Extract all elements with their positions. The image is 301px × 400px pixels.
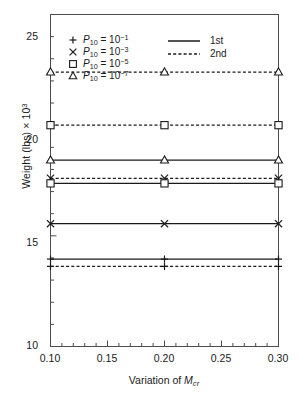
solid-line-icon — [167, 36, 201, 46]
data-series-layer — [47, 68, 283, 270]
legend-item-2nd: 2nd — [167, 47, 227, 60]
series-4 — [47, 180, 282, 187]
cross-icon — [66, 46, 80, 58]
series-1 — [47, 263, 282, 270]
legend-item-p10-3: P10 = 10−3 — [66, 46, 128, 58]
plus-icon — [66, 34, 80, 46]
legend-item-1st: 1st — [167, 34, 227, 47]
chart-figure: Weight (lbs) × 103 Variation of Mcr 25 2… — [0, 0, 301, 400]
legend-item-p10-7: P10 = 10−7 — [66, 70, 128, 82]
square-icon — [66, 58, 80, 70]
series-5 — [47, 122, 282, 129]
legend-item-p10-1: P10 = 10−1 — [66, 34, 128, 46]
series-2 — [47, 220, 282, 227]
dashed-line-icon — [167, 49, 201, 59]
legend-item-p10-5: P10 = 10−5 — [66, 58, 128, 70]
series-0 — [47, 255, 282, 262]
plot-area — [0, 0, 301, 400]
triangle-icon — [66, 70, 80, 82]
series-6 — [47, 156, 283, 163]
legend-line-styles: 1st 2nd — [167, 34, 227, 60]
legend-markers: P10 = 10−1 P10 = 10−3 P10 = 10−5 P10 = 1… — [66, 34, 128, 82]
